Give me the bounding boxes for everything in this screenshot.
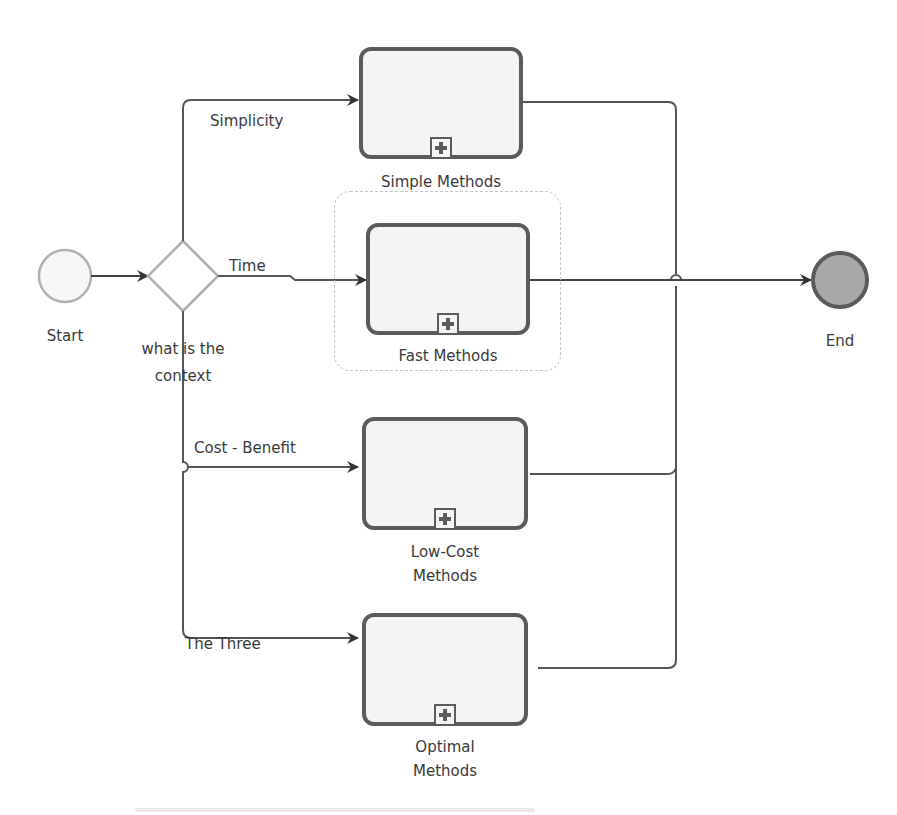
task-label-optimal-line1: Optimal xyxy=(415,737,474,757)
exclusive-gateway[interactable] xyxy=(148,241,218,311)
end-event[interactable] xyxy=(813,253,867,307)
task-label-optimal-line2: Methods xyxy=(413,761,477,781)
start-event[interactable] xyxy=(39,250,91,302)
flow-label-simplicity: Simplicity xyxy=(210,111,283,131)
subprocess-expand-icon[interactable] xyxy=(434,704,456,726)
task-fast-methods[interactable] xyxy=(366,223,530,335)
task-label-low-cost-line2: Methods xyxy=(413,566,477,586)
task-label-low-cost-line1: Low-Cost xyxy=(411,542,479,562)
gateway-label-line2: context xyxy=(155,366,212,386)
start-label: Start xyxy=(47,326,84,346)
flow-lowcost-out xyxy=(530,468,676,474)
task-optimal-methods[interactable] xyxy=(362,613,528,726)
task-low-cost-methods[interactable] xyxy=(362,417,528,530)
end-label: End xyxy=(826,331,855,351)
bpmn-diagram: Start End what is the context Simplicity… xyxy=(0,0,897,815)
subprocess-expand-icon[interactable] xyxy=(437,313,459,335)
gateway-label-line1: what is the xyxy=(142,339,225,359)
subprocess-expand-icon[interactable] xyxy=(434,508,456,530)
task-label-fast: Fast Methods xyxy=(399,346,498,366)
flow-label-time: Time xyxy=(229,256,266,276)
subprocess-expand-icon[interactable] xyxy=(430,137,452,159)
task-simple-methods[interactable] xyxy=(359,47,523,159)
flow-label-the-three: The Three xyxy=(185,634,261,654)
figure-caption-cropped xyxy=(135,808,535,812)
flow-label-cost-benefit: Cost - Benefit xyxy=(194,438,296,458)
task-label-simple: Simple Methods xyxy=(381,172,501,192)
flow-gateway-down xyxy=(183,311,358,638)
